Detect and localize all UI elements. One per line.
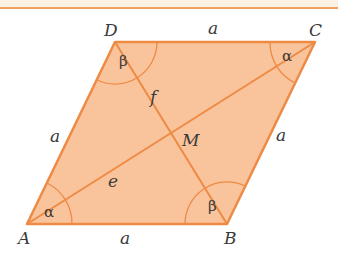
side-label-bc: a <box>276 127 286 144</box>
diagonal-label-e: e <box>108 173 118 190</box>
side-label-da: a <box>50 128 60 145</box>
center-label-m: M <box>182 132 199 149</box>
vertex-label-b: B <box>224 230 237 247</box>
angle-label-c: α <box>282 49 292 64</box>
diagonal-label-f: f <box>150 89 156 106</box>
angle-label-d: β <box>119 54 128 69</box>
side-label-cd: a <box>208 20 218 37</box>
angle-label-a: α <box>44 205 54 220</box>
angle-label-b: β <box>208 199 217 214</box>
vertex-label-a: A <box>18 230 30 247</box>
vertex-label-c: C <box>309 22 322 39</box>
vertex-label-d: D <box>104 22 118 39</box>
side-label-ab: a <box>120 230 130 247</box>
